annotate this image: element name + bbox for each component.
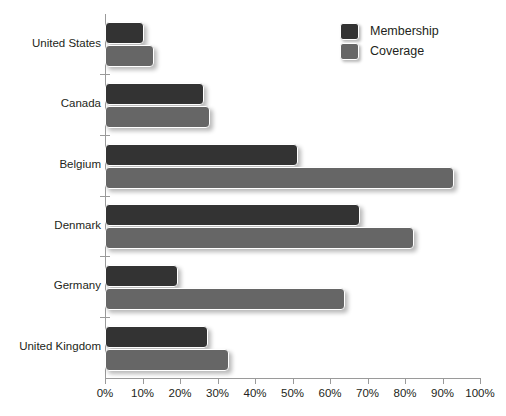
value-axis-tick (180, 378, 181, 384)
value-axis-label: 50% (281, 387, 304, 399)
value-axis-label: 20% (168, 387, 191, 399)
bar-membership-germany[interactable] (105, 265, 178, 287)
value-axis-label: 0% (97, 387, 114, 399)
value-axis-label: 10% (131, 387, 154, 399)
legend-label-coverage: Coverage (370, 45, 424, 58)
value-axis-label: 30% (206, 387, 229, 399)
value-axis-tick (443, 378, 444, 384)
bar-coverage-united-states[interactable] (105, 45, 154, 67)
legend-swatch-coverage-icon (340, 43, 359, 60)
bar-coverage-canada[interactable] (105, 106, 210, 128)
legend-item-membership[interactable]: Membership (340, 22, 439, 41)
bar-membership-united-states[interactable] (105, 22, 144, 44)
value-axis-label: 40% (243, 387, 266, 399)
category-axis-labels: United States Canada Belgium Denmark Ger… (0, 14, 101, 378)
value-axis-label: 70% (356, 387, 379, 399)
value-axis-tick (480, 378, 481, 384)
value-axis-tick (330, 378, 331, 384)
bar-membership-united-kingdom[interactable] (105, 326, 208, 348)
legend: Membership Coverage (340, 22, 439, 62)
category-label-united-states: United States (5, 38, 101, 50)
value-axis-label: 80% (393, 387, 416, 399)
value-axis-label: 100% (465, 387, 494, 399)
plot-area (105, 14, 480, 378)
legend-item-coverage[interactable]: Coverage (340, 42, 439, 61)
category-label-germany: Germany (5, 280, 101, 292)
bar-membership-canada[interactable] (105, 83, 204, 105)
value-axis-tick (255, 378, 256, 384)
value-axis-label: 60% (318, 387, 341, 399)
bar-membership-denmark[interactable] (105, 204, 360, 226)
category-label-canada: Canada (5, 98, 101, 110)
bar-coverage-germany[interactable] (105, 288, 345, 310)
value-axis-tick (293, 378, 294, 384)
value-axis-tick (105, 378, 106, 384)
bar-coverage-united-kingdom[interactable] (105, 349, 229, 371)
category-label-belgium: Belgium (5, 159, 101, 171)
category-label-denmark: Denmark (5, 220, 101, 232)
legend-label-membership: Membership (370, 25, 439, 38)
legend-swatch-membership-icon (340, 23, 359, 40)
bar-chart: United States Canada Belgium Denmark Ger… (0, 0, 506, 416)
value-axis-label: 90% (431, 387, 454, 399)
category-label-united-kingdom: United Kingdom (5, 341, 101, 353)
value-axis-tick (143, 378, 144, 384)
value-axis-tick (405, 378, 406, 384)
bar-coverage-belgium[interactable] (105, 167, 454, 189)
bar-coverage-denmark[interactable] (105, 227, 414, 249)
value-axis-tick (218, 378, 219, 384)
value-axis-tick (368, 378, 369, 384)
bar-membership-belgium[interactable] (105, 144, 298, 166)
